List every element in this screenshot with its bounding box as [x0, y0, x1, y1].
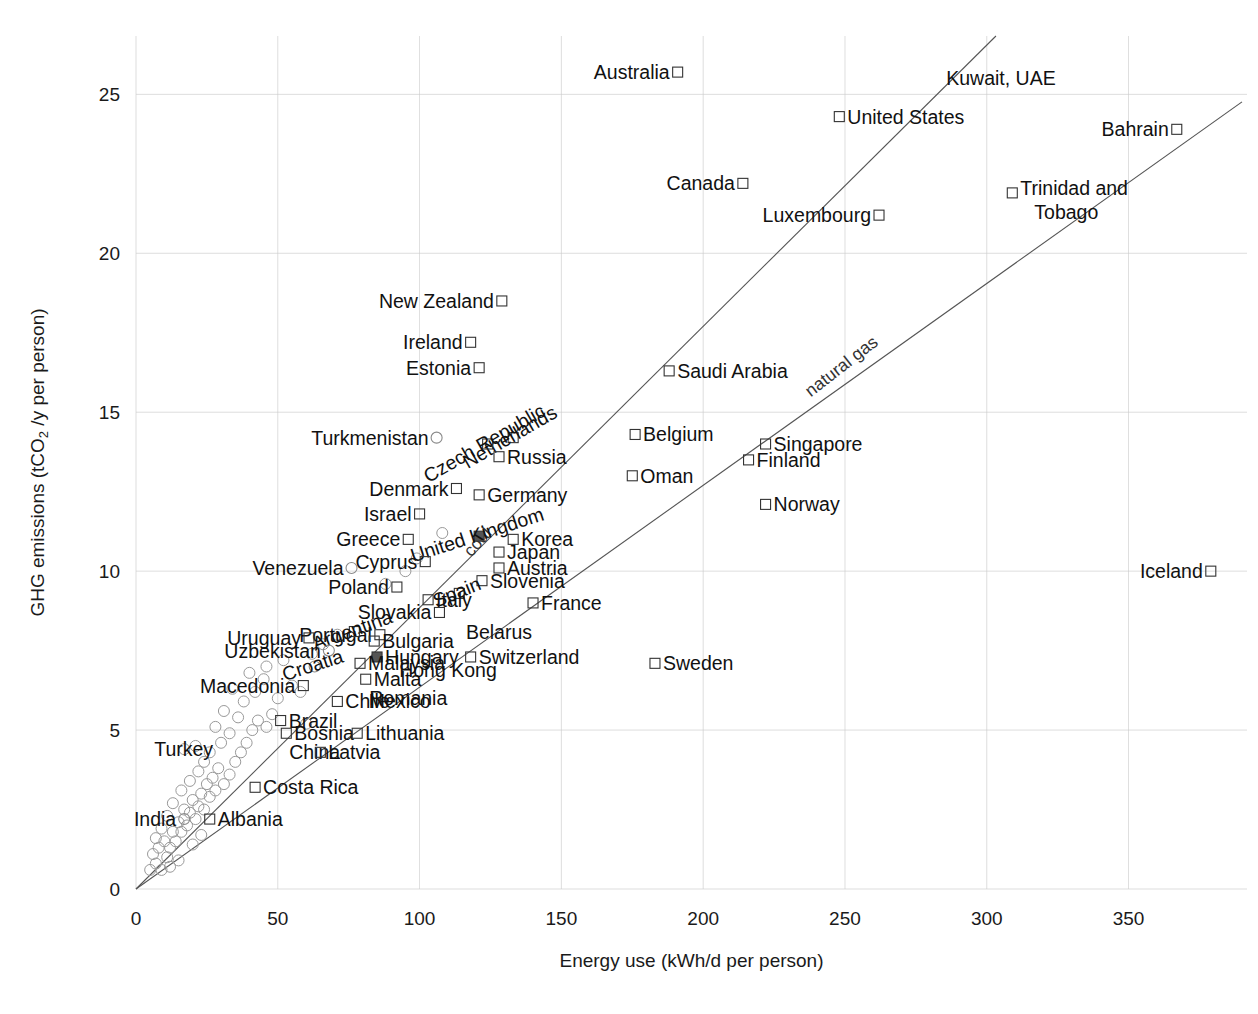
data-point-label: Poland	[328, 576, 389, 598]
data-point-label: Costa Rica	[263, 776, 359, 798]
scatter-plot: 0501001502002503003500510152025Energy us…	[0, 0, 1258, 1014]
x-tick-label: 300	[971, 908, 1003, 929]
data-point-label: United States	[847, 106, 964, 128]
data-point-label: Luxembourg	[763, 204, 871, 226]
y-tick-label: 15	[99, 402, 120, 423]
data-point-label: Saudi Arabia	[677, 360, 788, 382]
data-point-label: Macedonia	[200, 675, 296, 697]
data-point-label: Turkey	[154, 738, 213, 760]
data-point-label: Oman	[640, 465, 693, 487]
data-point-label: Kuwait, UAE	[946, 67, 1055, 89]
x-tick-label: 150	[546, 908, 578, 929]
data-point-label: Iceland	[1140, 560, 1203, 582]
y-tick-label: 20	[99, 243, 120, 264]
data-point-label: Cyprus	[355, 551, 417, 573]
data-point-label: Estonia	[406, 357, 471, 379]
data-point-label: France	[541, 592, 602, 614]
data-point-label: Germany	[487, 484, 567, 506]
x-tick-label: 0	[131, 908, 142, 929]
data-point-label: Denmark	[369, 478, 448, 500]
x-tick-label: 100	[404, 908, 436, 929]
data-point-label: Finland	[757, 449, 821, 471]
data-point-label: Australia	[594, 61, 670, 83]
data-point-label: India	[134, 808, 176, 830]
plot-background	[0, 0, 1258, 1014]
x-axis-title: Energy use (kWh/d per person)	[559, 950, 823, 971]
data-point-label: Bahrain	[1102, 118, 1169, 140]
y-tick-label: 0	[109, 879, 120, 900]
chart-canvas: 0501001502002503003500510152025Energy us…	[0, 0, 1258, 1014]
data-point-label: Turkmenistan	[311, 427, 428, 449]
data-point-label: Israel	[364, 503, 412, 525]
data-point-label: Slovenia	[490, 570, 565, 592]
data-point-label: Ireland	[403, 331, 463, 353]
y-tick-label: 10	[99, 561, 120, 582]
data-point-label: Russia	[507, 446, 567, 468]
data-point-label: Albania	[218, 808, 283, 830]
data-point-label: Canada	[667, 172, 735, 194]
x-tick-label: 200	[687, 908, 719, 929]
data-point-label: Mexico	[369, 690, 431, 712]
data-point-label: Latvia	[328, 741, 380, 763]
y-tick-label: 25	[99, 84, 120, 105]
x-tick-label: 50	[267, 908, 288, 929]
y-tick-label: 5	[109, 720, 120, 741]
x-tick-label: 350	[1113, 908, 1145, 929]
data-point-label: Greece	[336, 528, 400, 550]
data-point-label: New Zealand	[379, 290, 494, 312]
data-point-label: Norway	[774, 493, 840, 515]
data-point-label: Belgium	[643, 423, 713, 445]
data-point-label: Belarus	[466, 621, 532, 643]
y-axis-title: GHG emissions (tCO2 /y per person)	[27, 308, 51, 616]
data-point-label: Sweden	[663, 652, 733, 674]
x-tick-label: 250	[829, 908, 861, 929]
